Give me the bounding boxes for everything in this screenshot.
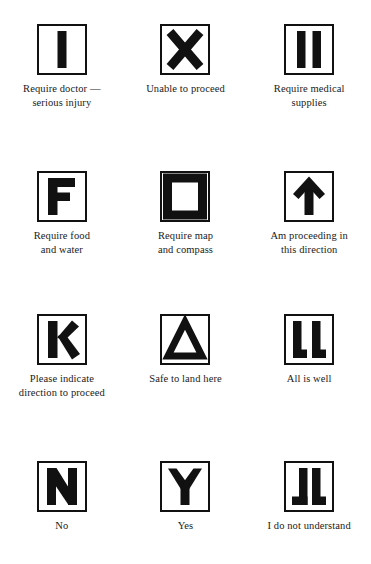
signal-panel-require-food-water [37, 171, 87, 222]
signal-card-no: No [0, 461, 124, 533]
signal-panel-safe-to-land [160, 314, 210, 365]
signal-panel-unable-to-proceed [160, 24, 210, 75]
cross-x-icon [162, 26, 208, 73]
signal-panel-indicate-direction [37, 314, 87, 365]
signal-panel-require-medical-supplies [284, 24, 334, 75]
signal-caption: Am proceeding in this direction [270, 229, 347, 256]
signal-code-sheet: Require doctor — serious injury Unable t… [0, 0, 371, 564]
signal-panel-do-not-understand [284, 461, 334, 512]
double-bar-ii-icon [286, 26, 332, 73]
signal-caption: Require map and compass [158, 229, 213, 256]
signal-card-safe-to-land: Safe to land here [124, 314, 248, 386]
signal-card-indicate-direction: Please indicate direction to proceed [0, 314, 124, 399]
signal-grid: Require doctor — serious injury Unable t… [0, 0, 371, 564]
signal-panel-require-map-compass [160, 171, 210, 222]
signal-card-do-not-understand: I do not understand [247, 461, 371, 533]
signal-caption: Safe to land here [149, 372, 222, 386]
letters-jl-icon [286, 463, 332, 510]
letter-f-icon [39, 173, 85, 220]
signal-caption: All is well [287, 372, 332, 386]
signal-card-require-food-water: Require food and water [0, 171, 124, 256]
signal-card-require-doctor: Require doctor — serious injury [0, 24, 124, 109]
signal-card-unable-to-proceed: Unable to proceed [124, 24, 248, 96]
signal-panel-yes [160, 461, 210, 512]
letter-k-icon [39, 316, 85, 363]
letter-y-icon [162, 463, 208, 510]
hollow-triangle-icon [162, 316, 208, 363]
signal-card-yes: Yes [124, 461, 248, 533]
signal-caption: Require medical supplies [274, 82, 345, 109]
signal-card-all-is-well: All is well [247, 314, 371, 386]
up-arrow-icon [286, 173, 332, 220]
signal-caption: Require food and water [34, 229, 90, 256]
hollow-square-icon [162, 173, 208, 220]
signal-caption: I do not understand [268, 519, 351, 533]
signal-card-require-map-compass: Require map and compass [124, 171, 248, 256]
signal-panel-proceeding-direction [284, 171, 334, 222]
signal-card-proceeding-direction: Am proceeding in this direction [247, 171, 371, 256]
signal-card-require-medical-supplies: Require medical supplies [247, 24, 371, 109]
letter-n-icon [39, 463, 85, 510]
signal-caption: Require doctor — serious injury [23, 82, 100, 109]
double-letter-ll-icon [286, 316, 332, 363]
letter-i-bar-icon [39, 26, 85, 73]
signal-caption: Yes [178, 519, 194, 533]
signal-panel-all-is-well [284, 314, 334, 365]
signal-caption: No [55, 519, 68, 533]
signal-caption: Please indicate direction to proceed [19, 372, 105, 399]
signal-caption: Unable to proceed [146, 82, 225, 96]
signal-panel-no [37, 461, 87, 512]
signal-panel-require-doctor [37, 24, 87, 75]
